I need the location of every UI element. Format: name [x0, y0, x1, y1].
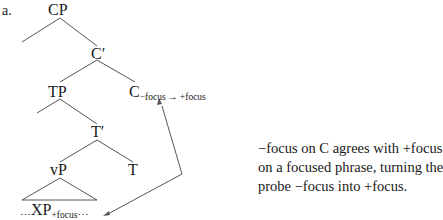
node-t: T [128, 162, 138, 178]
caption: −focus on C agrees with +focus on a focu… [258, 139, 443, 196]
node-c-feature: −focus → +focus [140, 92, 206, 102]
caption-line-3: probe −focus into +focus. [258, 177, 443, 196]
node-tp: TP [48, 84, 67, 100]
xp-ellipsis-right: … [77, 205, 88, 217]
node-c-label: C [129, 83, 140, 100]
xp-ellipsis-left: … [20, 205, 31, 217]
caption-line-1: −focus on C agrees with +focus [258, 139, 443, 158]
node-vp: vP [50, 162, 67, 178]
node-cp: CP [48, 2, 68, 18]
node-t-bar: T′ [91, 124, 104, 140]
node-xp: …XP+focus… [20, 202, 88, 218]
caption-line-2: on a focused phrase, turning the [258, 158, 443, 177]
xp-label: XP [31, 201, 51, 218]
node-c: C−focus → +focus [129, 84, 206, 100]
node-c-bar: C′ [91, 46, 105, 62]
xp-feature: +focus [51, 210, 77, 220]
